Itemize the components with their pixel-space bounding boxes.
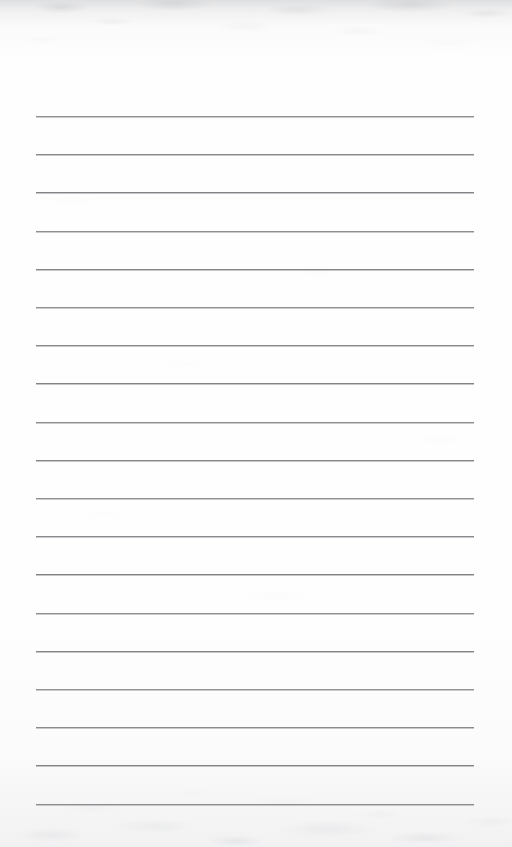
rule-line [36,613,474,614]
rule-line [36,383,474,384]
rule-line [36,269,474,270]
rule-line [36,765,474,766]
scanned-page [0,0,512,847]
rule-line [36,804,474,805]
rule-line [36,498,474,499]
rule-line [36,574,474,575]
rule-line [36,536,474,537]
rule-line [36,651,474,652]
rule-line [36,307,474,308]
rule-line [36,460,474,461]
rule-line [36,154,474,155]
ruled-lines-group [0,0,512,847]
rule-line [36,231,474,232]
rule-line [36,422,474,423]
rule-line [36,192,474,193]
rule-line [36,689,474,690]
rule-line [36,345,474,346]
rule-line [36,116,474,117]
rule-line [36,727,474,728]
